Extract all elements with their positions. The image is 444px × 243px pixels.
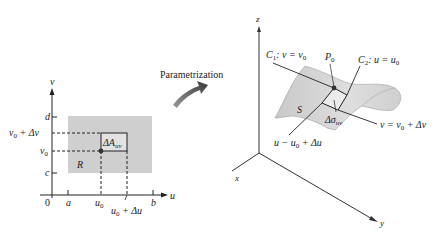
v0-label: v0 xyxy=(40,145,48,158)
parametrization-arrow: Parametrization xyxy=(160,69,223,108)
v-line-label: v = v0 + Δv xyxy=(380,119,427,132)
tick-a-label: a xyxy=(66,197,71,208)
v-axis-arrowhead xyxy=(50,88,55,95)
y-axis-arrowhead xyxy=(369,216,378,222)
z-axis-arrowhead xyxy=(257,26,261,32)
x-axis-label: x xyxy=(234,173,239,183)
surface-s-label: S xyxy=(297,104,302,115)
v-axis-label: v xyxy=(50,76,55,87)
uv-plane: v u 0 a b c d u0 u0 + Δu v0 + Δv v0 R ΔA… xyxy=(9,76,175,218)
tick-c-label: c xyxy=(45,167,50,178)
point-p0 xyxy=(332,86,337,91)
point-u0-v0 xyxy=(99,149,104,154)
z-axis-label: z xyxy=(255,14,260,24)
c1-label: C1: v = v0 xyxy=(266,49,307,62)
y-axis xyxy=(259,153,374,220)
y-axis-label: y xyxy=(379,218,384,228)
c2-label: C2: u = u0 xyxy=(358,54,400,67)
p0-label: P0 xyxy=(324,51,335,64)
u-axis-label: u xyxy=(170,190,175,201)
tick-d-label: d xyxy=(45,111,51,122)
region-r-label: R xyxy=(76,159,83,170)
tick-b-label: b xyxy=(151,197,156,208)
u-line-label: u − u0 + Δu xyxy=(274,137,322,150)
origin-label: 0 xyxy=(45,197,50,208)
parametrization-diagram: v u 0 a b c d u0 u0 + Δu v0 + Δv v0 R ΔA… xyxy=(0,0,444,243)
u0-label: u0 xyxy=(95,197,104,210)
v0-plus-dv-label: v0 + Δv xyxy=(9,127,40,140)
leader-u0-plus-du xyxy=(125,195,127,200)
u0-plus-du-label: u0 + Δu xyxy=(111,205,142,218)
u-axis-arrowhead xyxy=(161,193,168,198)
parametrization-label: Parametrization xyxy=(160,69,223,80)
curved-arrow-icon xyxy=(173,81,208,108)
xyz-space: z x y S P0 C1: v = v0 C2: u = u0 Δσuv v … xyxy=(232,14,427,228)
x-axis xyxy=(232,153,259,171)
